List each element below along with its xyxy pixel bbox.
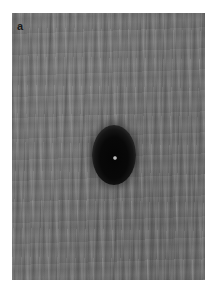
dark-spot: [92, 125, 136, 185]
micrograph-panel: a: [12, 13, 205, 280]
panel-label: a: [17, 21, 23, 32]
spot-bright-center: [113, 156, 117, 160]
